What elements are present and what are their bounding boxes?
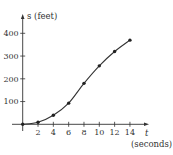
data-point	[67, 101, 70, 104]
data-point	[113, 50, 116, 53]
data-points	[21, 38, 132, 126]
x-tick-label: 2	[35, 128, 40, 137]
x-axis-symbol: t	[145, 128, 149, 138]
data-point	[21, 123, 24, 126]
y-tick-label: 400	[3, 29, 18, 38]
data-point	[82, 82, 85, 85]
y-ticks: 100200300400	[3, 29, 25, 106]
data-point	[98, 64, 101, 67]
y-tick-label: 100	[3, 97, 18, 106]
x-tick-label: 12	[110, 128, 120, 137]
data-point	[128, 38, 131, 41]
x-axis-arrow-icon	[144, 123, 149, 127]
x-tick-label: 6	[66, 128, 71, 137]
x-tick-label: 10	[94, 128, 104, 137]
y-tick-label: 300	[3, 52, 18, 61]
y-tick-label: 200	[3, 75, 18, 84]
chart-canvas: 100200300400 2468101214 s (feet) t (seco…	[0, 0, 173, 155]
x-tick-label: 14	[125, 128, 135, 137]
data-point	[36, 121, 39, 124]
x-tick-label: 8	[81, 128, 86, 137]
y-axis-label: s (feet)	[27, 11, 57, 21]
x-axis-units: (seconds)	[131, 139, 172, 149]
y-axis-arrow-icon	[21, 14, 25, 19]
data-point	[52, 114, 55, 117]
x-tick-label: 4	[51, 128, 56, 137]
